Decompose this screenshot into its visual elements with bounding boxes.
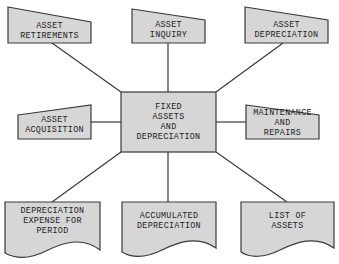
asset-depreciation-label: ASSET DEPRECIATION	[245, 17, 328, 43]
edge-center-expense	[52, 152, 121, 202]
asset-inquiry-label: ASSET INQUIRY	[132, 17, 205, 43]
edge-center-retirements	[52, 43, 121, 92]
asset-retirements-label: ASSET RETIREMENTS	[8, 18, 91, 43]
asset-acquisition-label: ASSET ACQUISITION	[18, 110, 91, 139]
list-of-assets-label: LIST OF ASSETS	[241, 206, 334, 236]
fixed-assets-process-label: FIXED ASSETS AND DEPRECIATION	[121, 92, 216, 152]
maintenance-repairs-label: MAINTENANCE AND REPAIRS	[244, 107, 321, 139]
edge-center-depreciation	[216, 43, 283, 92]
depreciation-expense-label: DEPRECIATION EXPENSE FOR PERIOD	[5, 204, 100, 238]
accumulated-depreciation-label: ACCUMULATED DEPRECIATION	[122, 206, 216, 236]
edge-center-list	[216, 152, 287, 202]
